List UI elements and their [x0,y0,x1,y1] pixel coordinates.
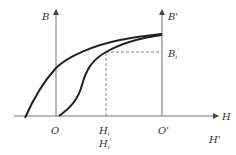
magnetization-diagram: B B' H Bi' O Hi O' Hi' H' [0,0,236,155]
origin-label: O [51,125,59,136]
origin-prime-label: O' [158,125,169,136]
h-axis-label: H [221,111,231,122]
b-prime-axis-label: B' [167,11,178,22]
b-axis-label: B [41,11,49,22]
h-prime-label: H' [208,134,220,145]
h-i-prime-label: Hi' [98,137,112,150]
h-i-label: Hi [98,125,110,137]
hysteresis-upper-curve [25,34,162,118]
b-i-prime-label: Bi' [167,47,179,60]
virgin-magnetization-curve [59,35,162,116]
